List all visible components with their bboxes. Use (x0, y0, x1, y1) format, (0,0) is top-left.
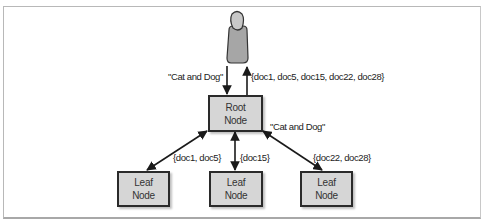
leaf-node-2: Leaf Node (209, 171, 263, 207)
leaf-node-label-line1: Leaf (227, 176, 245, 189)
leaf1-results-label: {doc1, doc5} (173, 152, 221, 163)
leaf-node-label-line1: Leaf (134, 176, 152, 189)
leaf-node-1: Leaf Node (117, 171, 170, 207)
root-node: Root Node (208, 95, 263, 132)
leaf-node-label-line2: Node (132, 189, 155, 202)
query-label-user-to-root: "Cat and Dog" (168, 71, 223, 82)
leaf3-results-label: {doc22, doc28} (313, 152, 371, 163)
leaf-node-label-line2: Node (315, 189, 338, 202)
root-node-label-line2: Node (224, 114, 247, 127)
leaf-node-label-line1: Leaf (317, 176, 335, 189)
query-label-root-to-leaves: "Cat and Dog" (270, 121, 325, 132)
leaf-node-label-line2: Node (225, 189, 248, 202)
leaf2-results-label: {doc15} (240, 152, 269, 163)
root-results-label: {doc1, doc5, doc15, doc22, doc28} (251, 71, 384, 82)
leaf-node-3: Leaf Node (300, 171, 353, 207)
root-node-label-line1: Root (226, 101, 246, 114)
person-icon (227, 12, 248, 64)
root-leaf3-arrow (263, 131, 322, 170)
root-leaf1-arrow (147, 131, 207, 170)
